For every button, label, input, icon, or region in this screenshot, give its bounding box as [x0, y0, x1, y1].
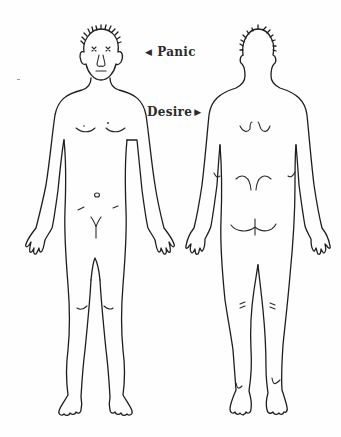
front-groin — [91, 217, 101, 238]
back-shoulder-blades — [240, 122, 270, 131]
back-ankle-right — [272, 378, 280, 384]
back-leg-left — [220, 145, 258, 415]
x-eyes-icon — [92, 47, 110, 51]
panic-label-text: Panic — [157, 45, 196, 59]
back-leg-right — [258, 145, 296, 414]
front-navel — [95, 193, 100, 197]
arrow-right-icon: ▶ — [194, 107, 201, 117]
front-figure — [26, 25, 175, 415]
body-figures — [0, 0, 341, 437]
front-nose — [97, 55, 105, 66]
back-elbow-right — [288, 172, 295, 177]
desire-label-text: Desire — [147, 105, 192, 119]
back-elbow-left — [214, 173, 220, 177]
back-head — [243, 29, 331, 254]
arrow-left-icon: ◀ — [145, 47, 152, 57]
front-torso-left — [59, 140, 91, 415]
back-buttocks — [231, 219, 276, 235]
front-hip-right — [113, 206, 118, 208]
front-crotch — [91, 258, 100, 280]
front-hair-icon — [81, 25, 121, 44]
body-map-diagram: ◀ Panic Desire ▶ — [0, 0, 341, 437]
front-chest-details — [76, 122, 125, 132]
back-body-left — [186, 55, 245, 254]
back-knee-left — [240, 302, 245, 308]
back-lower-back-details — [236, 176, 271, 190]
front-knee-right — [104, 306, 113, 309]
panic-label: ◀ Panic — [145, 45, 196, 59]
back-ankle-left — [236, 383, 242, 388]
front-body-right — [100, 140, 132, 415]
desire-label: Desire ▶ — [147, 105, 201, 119]
front-knee-left — [77, 306, 87, 309]
back-knee-right — [270, 303, 275, 309]
back-figure — [186, 25, 330, 415]
front-head — [80, 29, 122, 80]
paper-speck — [17, 79, 20, 80]
front-body-left — [26, 78, 91, 254]
front-hip-left — [78, 207, 84, 210]
